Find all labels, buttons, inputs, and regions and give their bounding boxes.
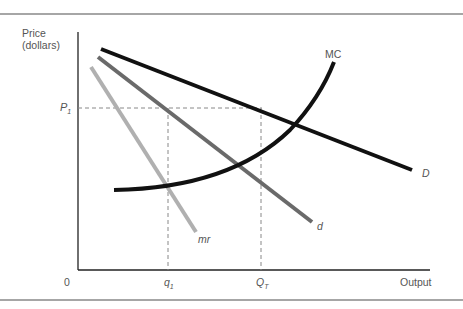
origin-label: 0 — [64, 276, 70, 288]
x-axis-label: Output — [400, 276, 432, 288]
d-label: d — [317, 220, 323, 232]
qt-label: QT — [256, 276, 268, 293]
mr-label: mr — [198, 233, 210, 245]
chart-canvas — [0, 0, 463, 309]
q1-label: q1 — [164, 276, 174, 293]
p1-label: P1 — [60, 101, 71, 118]
D-label: D — [422, 167, 430, 179]
mc-label: MC — [325, 48, 341, 60]
D-curve — [101, 49, 412, 170]
y-axis-label: Price (dollars) — [22, 27, 60, 51]
